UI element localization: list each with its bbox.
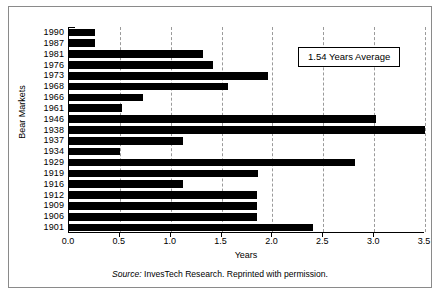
y-tick-label: 1981 [10, 49, 64, 60]
bar [69, 61, 213, 69]
bar [69, 94, 143, 102]
x-tick-label: 3.5 [418, 236, 431, 246]
x-tick-label: 0.0 [62, 236, 75, 246]
y-tick-label: 1990 [10, 27, 64, 38]
bar [69, 180, 183, 188]
source-text: InvesTech Research. Reprinted with permi… [142, 269, 328, 279]
x-tick-mark [322, 233, 323, 237]
x-axis-title: Years [68, 250, 424, 260]
y-tick-label: 1906 [10, 211, 64, 222]
y-tick-label: 1909 [10, 200, 64, 211]
y-tick-label: 1919 [10, 168, 64, 179]
y-tick-label: 1946 [10, 114, 64, 125]
x-tick-mark [170, 233, 171, 237]
x-tick-mark [221, 233, 222, 237]
y-tick-label: 1937 [10, 135, 64, 146]
x-tick-label: 2.0 [265, 236, 278, 246]
source-prefix: Source: [112, 269, 142, 279]
bar [69, 191, 257, 199]
y-tick-label: 1938 [10, 125, 64, 136]
x-tick-label: 0.5 [113, 236, 126, 246]
bar-row [69, 81, 424, 92]
bar-row [69, 179, 424, 190]
bar [69, 50, 203, 58]
average-annotation-box: 1.54 Years Average [298, 47, 400, 67]
y-tick-label: 1901 [10, 222, 64, 233]
bar-row [69, 114, 424, 125]
bar [69, 126, 425, 134]
x-tick-mark [271, 233, 272, 237]
y-tick-label: 1929 [10, 157, 64, 168]
bar-row [69, 92, 424, 103]
source-note: Source: InvesTech Research. Reprinted wi… [9, 269, 431, 279]
y-tick-label: 1968 [10, 81, 64, 92]
bar-row [69, 157, 424, 168]
x-tick-label: 2.5 [316, 236, 329, 246]
bar [69, 104, 122, 112]
bar-row [69, 168, 424, 179]
bar [69, 83, 228, 91]
bar-row [69, 135, 424, 146]
bar-row [69, 103, 424, 114]
y-tick-label: 1961 [10, 103, 64, 114]
x-tick-mark [373, 233, 374, 237]
bar-row [69, 70, 424, 81]
bar-row [69, 190, 424, 201]
chart-figure: Bear Markets 199019871981197619731968196… [8, 6, 432, 288]
bar [69, 202, 257, 210]
bar-row [69, 146, 424, 157]
bar-row [69, 27, 424, 38]
bar [69, 213, 257, 221]
bar [69, 29, 95, 37]
x-tick-label: 1.0 [163, 236, 176, 246]
bar-row [69, 125, 424, 136]
y-tick-label: 1916 [10, 179, 64, 190]
bar [69, 224, 313, 232]
bar-row [69, 222, 424, 233]
gridline [425, 27, 426, 232]
y-tick-label: 1934 [10, 146, 64, 157]
bar [69, 115, 376, 123]
y-tick-label: 1976 [10, 60, 64, 71]
bar [69, 159, 355, 167]
bar-row [69, 211, 424, 222]
x-tick-label: 3.0 [367, 236, 380, 246]
bar [69, 148, 120, 156]
bar [69, 72, 268, 80]
y-axis-tick-labels: 1990198719811976197319681966196119461938… [9, 27, 64, 233]
x-tick-mark [119, 233, 120, 237]
bar [69, 39, 95, 47]
y-tick-label: 1966 [10, 92, 64, 103]
bar-row [69, 200, 424, 211]
x-tick-label: 1.5 [214, 236, 227, 246]
y-tick-label: 1973 [10, 70, 64, 81]
bar [69, 170, 258, 178]
y-tick-label: 1912 [10, 190, 64, 201]
x-axis-tick-labels: 0.00.51.01.52.02.53.03.5 [68, 236, 424, 250]
y-tick-label: 1987 [10, 38, 64, 49]
bar [69, 137, 183, 145]
